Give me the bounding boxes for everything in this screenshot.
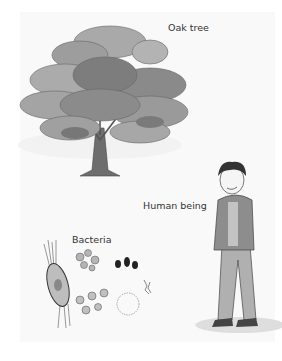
filament-cluster (117, 293, 139, 315)
cocci-cluster (76, 250, 99, 272)
bacteria-illustration (0, 0, 282, 361)
dark-bacteria (115, 257, 138, 269)
flagellated-cocci (76, 289, 108, 314)
bacillus-with-flagella (43, 240, 74, 328)
spirilla (144, 280, 151, 294)
